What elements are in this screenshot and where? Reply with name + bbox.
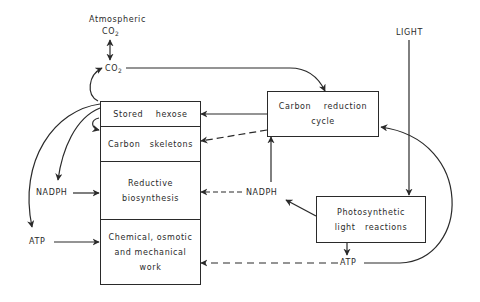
photosynthesis-to-nadph-arrow (286, 200, 316, 216)
atp-left-label: ATP (29, 238, 45, 246)
atmospheric-co2-subscript: 2 (115, 30, 119, 37)
co2-text: CO (105, 64, 118, 73)
work-line-1: Chemical, osmotic (109, 230, 193, 245)
work-cell: Chemical, osmotic and mechanical work (101, 220, 200, 284)
atmospheric-co2-label: CO2 (102, 28, 120, 37)
co2-label: CO2 (105, 65, 123, 74)
biosynthesis-label: biosynthesis (122, 191, 179, 206)
carbon-reduction-line-2: cycle (311, 114, 335, 129)
carbon-skeletons-label: Carbon skeletons (108, 137, 193, 152)
light-label: LIGHT (396, 29, 423, 37)
co2-subscript: 2 (118, 67, 122, 74)
hexose-to-co2-arrow (90, 68, 102, 101)
work-line-3: work (140, 260, 162, 275)
atmospheric-co2-text: CO (102, 27, 115, 36)
photosynthetic-line-2: light reactions (335, 220, 407, 235)
stored-hexose-label: Stored hexose (113, 107, 187, 122)
cell-processes-box: Stored hexose Carbon skeletons Reductive… (100, 101, 201, 285)
atp-bottom-label: ATP (340, 259, 356, 267)
co2-to-carbon-cycle-arrow (126, 68, 325, 91)
work-line-2: and mechanical (115, 245, 187, 260)
carbon-reduction-line-1: Carbon reduction (279, 99, 367, 114)
atmospheric-label: Atmospheric (89, 16, 146, 24)
stored-hexose-cell: Stored hexose (101, 102, 200, 127)
carbon-skeletons-cell: Carbon skeletons (101, 127, 200, 162)
carbon-reduction-cycle-box: Carbon reduction cycle (267, 91, 379, 137)
connector-lines (0, 0, 480, 302)
cycle-to-skeletons-arrow (201, 130, 267, 141)
nadph-mid-label: NADPH (246, 189, 277, 197)
hexose-to-atp-arrow (29, 104, 100, 227)
nadph-left-label: NADPH (36, 189, 67, 197)
reductive-label: Reductive (128, 176, 173, 191)
reductive-biosynthesis-cell: Reductive biosynthesis (101, 162, 200, 220)
photosynthetic-light-reactions-box: Photosynthetic light reactions (316, 196, 426, 243)
hexose-to-skeletons-loop (93, 118, 99, 130)
photosynthetic-line-1: Photosynthetic (337, 205, 405, 220)
